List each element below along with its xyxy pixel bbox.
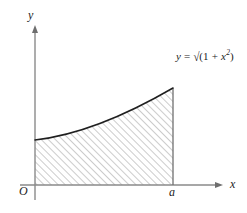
radical-icon: √ <box>193 50 199 63</box>
x-axis-label: x <box>230 178 235 190</box>
equation-equals: = <box>181 50 193 62</box>
upper-bound-label: a <box>169 186 175 198</box>
graph-canvas <box>0 0 247 213</box>
y-axis-arrowhead <box>32 25 38 33</box>
x-axis-arrowhead <box>215 182 223 188</box>
figure-container: y x O a y = √(1 + x2) <box>0 0 247 213</box>
equation-close-paren: ) <box>230 50 234 62</box>
origin-label: O <box>19 185 28 197</box>
equation-open-paren: (1 + <box>199 50 221 62</box>
y-axis-label: y <box>28 9 33 21</box>
equation-label: y = √(1 + x2) <box>176 51 234 62</box>
